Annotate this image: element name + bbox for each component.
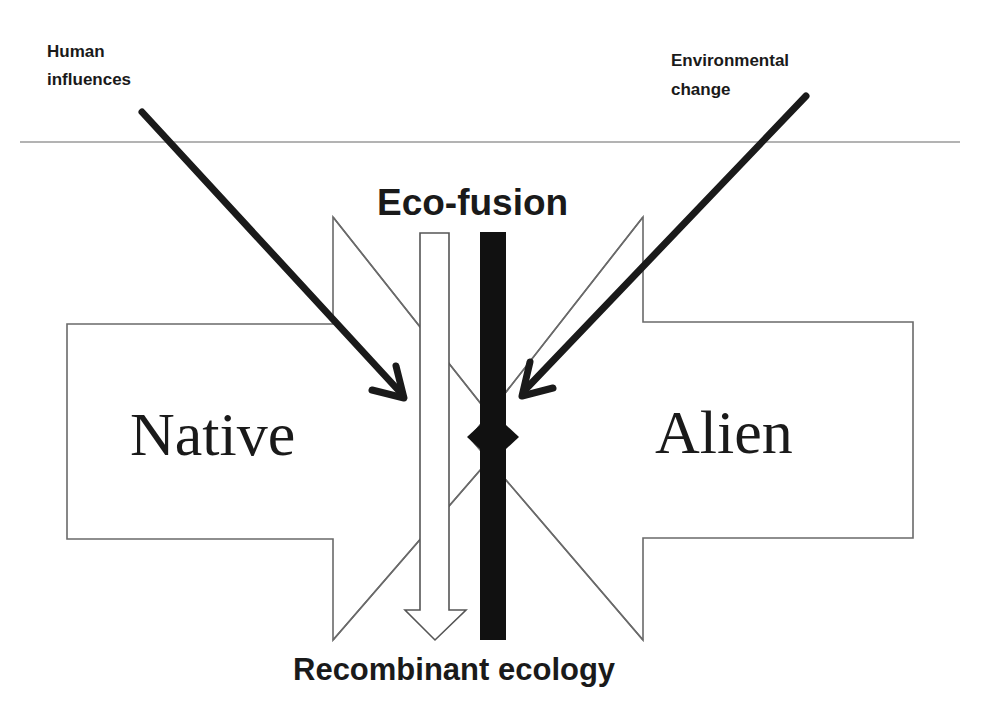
recombinant-ecology-label: Recombinant ecology <box>293 652 616 687</box>
native-label: Native <box>130 400 295 468</box>
human-influences-label: Human influences <box>47 42 131 89</box>
alien-label: Alien <box>655 398 793 466</box>
eco-fusion-diagram: Human influences Environmental change Ec… <box>0 0 987 720</box>
environmental-change-label: Environmental change <box>671 51 794 99</box>
eco-fusion-title: Eco-fusion <box>377 182 568 223</box>
